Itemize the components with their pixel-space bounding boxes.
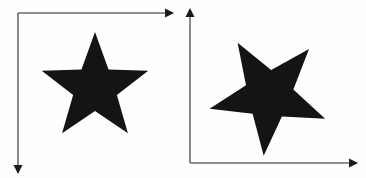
- figure-background: [0, 0, 366, 178]
- star-rotation-diagram: [0, 0, 366, 178]
- figure-container: [0, 0, 366, 178]
